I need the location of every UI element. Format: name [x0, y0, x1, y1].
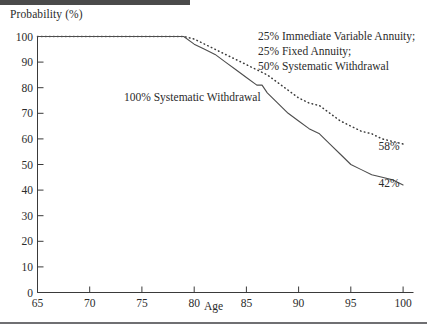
y-tick-label: 70	[22, 107, 34, 119]
bottom-rule-decoration	[0, 322, 427, 324]
x-axis-title: Age	[0, 300, 427, 312]
chart-figure: Probability (%) 100 90 80 70 60 50	[0, 0, 427, 333]
end-label-annuity-mix: 58%	[378, 140, 400, 152]
y-tick-label: 60	[22, 133, 34, 145]
y-tick-label: 10	[22, 261, 34, 273]
x-axis-ticks	[38, 287, 404, 293]
annotation-line: 25% Immediate Variable Annuity;	[258, 30, 415, 43]
plot-area: 100 90 80 70 60 50 40 30 20 10 0 65 70	[0, 0, 427, 333]
y-tick-label: 30	[22, 210, 34, 222]
series-line-systematic-withdrawal	[38, 37, 404, 185]
y-tick-label: 40	[22, 184, 34, 196]
annotation-line: 25% Fixed Annuity;	[258, 45, 351, 58]
y-tick-label: 50	[22, 159, 34, 171]
y-tick-label: 20	[22, 235, 34, 247]
y-axis-tick-labels: 100 90 80 70 60 50 40 30 20 10 0	[16, 31, 34, 299]
y-axis-ticks	[38, 37, 44, 293]
y-tick-label: 80	[22, 82, 34, 94]
annotation-line: 100% Systematic Withdrawal	[124, 91, 261, 104]
y-tick-label: 90	[22, 56, 34, 68]
y-tick-label: 100	[16, 31, 34, 43]
end-label-systematic-withdrawal: 42%	[378, 177, 400, 189]
annotation-annuity-mix: 25% Immediate Variable Annuity; 25% Fixe…	[258, 30, 415, 73]
annotation-systematic-withdrawal: 100% Systematic Withdrawal	[124, 91, 261, 104]
annotation-line: 50% Systematic Withdrawal	[258, 60, 389, 73]
